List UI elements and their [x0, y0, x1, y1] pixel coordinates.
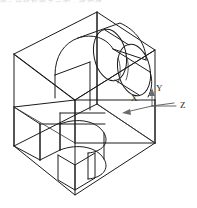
outer-box-wireframe [14, 12, 155, 195]
technical-drawing-figure: 图2 用线框图表示的三维实体 [0, 0, 197, 208]
axis-label-z: Z [180, 100, 186, 110]
wireframe-drawing-canvas: X Y Z [0, 0, 197, 208]
axis-label-y: Y [156, 83, 163, 93]
mid-shelf-plane [14, 100, 155, 160]
axis-label-x: X [131, 93, 138, 103]
